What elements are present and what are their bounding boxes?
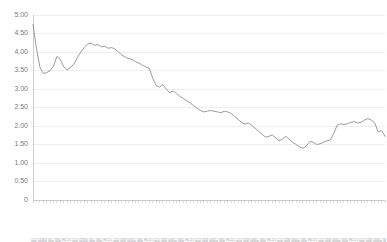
y-tick-label: 4.00 bbox=[14, 48, 28, 55]
y-tick-label: 1.00 bbox=[14, 159, 28, 166]
y-tick-label: 4.50 bbox=[14, 29, 28, 36]
y-tick-label: 2.50 bbox=[14, 103, 28, 110]
y-axis-tick-labels: 5.004.504.003.503.002.502.001.501.000.50… bbox=[14, 11, 28, 203]
gridlines-group bbox=[33, 15, 385, 182]
y-tick-label: 3.00 bbox=[14, 85, 28, 92]
y-tick-label: 0.50 bbox=[14, 177, 28, 184]
y-tick-label: 5.00 bbox=[14, 11, 28, 18]
y-tick-label: 2.00 bbox=[14, 122, 28, 129]
x-axis-tickmarks bbox=[33, 200, 385, 203]
y-tick-label: 3.50 bbox=[14, 66, 28, 73]
chart-container: 5.004.504.003.503.002.502.001.501.000.50… bbox=[0, 0, 387, 242]
data-series-line bbox=[33, 24, 385, 148]
line-chart: 5.004.504.003.503.002.502.001.501.000.50… bbox=[0, 0, 387, 242]
x-tick-label: 2018.08 bbox=[383, 238, 387, 242]
y-tick-label: 0 bbox=[24, 196, 28, 203]
x-axis-tick-labels: 2010.012010.022010.032010.042010.052010.… bbox=[31, 238, 387, 242]
y-tick-label: 1.50 bbox=[14, 140, 28, 147]
